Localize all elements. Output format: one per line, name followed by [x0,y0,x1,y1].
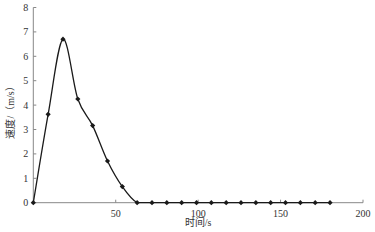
y-tick-label: 2 [23,148,28,159]
speed-series-line [33,39,330,203]
axes [33,8,363,203]
data-point-marker [238,200,243,205]
y-tick-label: 4 [23,100,28,111]
x-tick-label: 150 [273,208,288,219]
data-point-marker [105,158,110,163]
y-tick-label: 1 [23,173,28,184]
data-point-marker [209,200,214,205]
data-point-marker [46,112,51,117]
data-point-marker [327,200,332,205]
y-tick-label: 7 [23,26,28,37]
data-point-marker [90,123,95,128]
data-point-marker [31,200,36,205]
data-point-marker [75,96,80,101]
data-point-marker [224,200,229,205]
y-tick-label: 0 [23,197,28,208]
data-point-marker [149,200,154,205]
x-tick-label: 50 [111,208,121,219]
ticks: 01234567850100150200 [23,2,370,219]
data-point-marker [268,200,273,205]
speed-series-markers [31,37,333,206]
data-point-marker [179,200,184,205]
y-tick-label: 5 [23,75,28,86]
y-axis-label: 速度/（m/s） [4,81,16,138]
data-point-marker [253,200,258,205]
y-tick-label: 8 [23,2,28,13]
data-point-marker [313,200,318,205]
speed-time-chart: 01234567850100150200 时间/s 速度/（m/s） [0,0,375,232]
y-tick-label: 6 [23,51,28,62]
x-axis-label: 时间/s [185,216,212,228]
data-point-marker [164,200,169,205]
x-tick-label: 200 [356,208,371,219]
chart-svg: 01234567850100150200 时间/s 速度/（m/s） [0,0,375,232]
y-tick-label: 3 [23,124,28,135]
data-point-marker [298,200,303,205]
data-point-marker [283,200,288,205]
